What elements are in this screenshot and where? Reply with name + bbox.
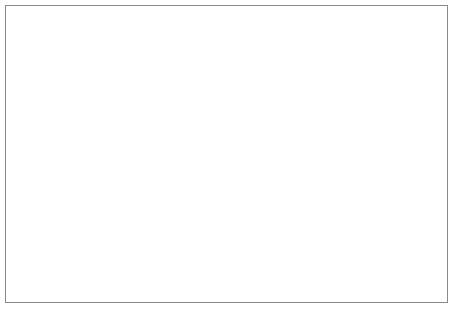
dns-hierarchy-diagram bbox=[0, 0, 458, 311]
edge-layer bbox=[0, 0, 458, 311]
